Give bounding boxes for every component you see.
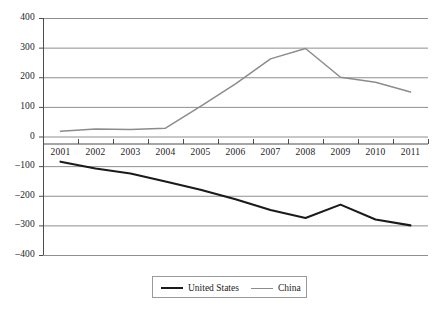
y-axis-tick-label: 300 <box>0 42 35 52</box>
x-axis-tick-label: 2010 <box>358 147 393 157</box>
legend-item-china: China <box>251 281 301 295</box>
chart-canvas <box>0 0 447 315</box>
line-chart: 4003002001000–100–200–300–400 2001200220… <box>0 0 447 315</box>
y-axis-tick-label: –100 <box>0 160 35 170</box>
chart-legend: United States China <box>152 276 307 298</box>
x-axis-tick-label: 2008 <box>288 147 323 157</box>
x-axis-tick-label: 2003 <box>113 147 148 157</box>
x-axis-tick-label: 2009 <box>323 147 358 157</box>
series-line-united-states <box>61 162 411 226</box>
y-axis-tick-label: 400 <box>0 12 35 22</box>
x-axis-tick-label: 2001 <box>43 147 78 157</box>
x-axis-tick-label: 2006 <box>218 147 253 157</box>
legend-label-china: China <box>278 282 301 295</box>
legend-item-united-states: United States <box>161 281 239 295</box>
x-axis-tick-label: 2007 <box>253 147 288 157</box>
y-axis-tick-label: –200 <box>0 190 35 200</box>
y-axis-tick-label: 100 <box>0 101 35 111</box>
y-axis-tick-label: –300 <box>0 219 35 229</box>
x-axis-tick-label: 2011 <box>393 147 428 157</box>
legend-swatch-china <box>251 288 273 289</box>
x-axis-tick-label: 2002 <box>78 147 113 157</box>
series-line-china <box>61 49 411 132</box>
x-axis-tick-label: 2004 <box>148 147 183 157</box>
y-axis-tick-label: –400 <box>0 249 35 259</box>
legend-swatch-united-states <box>161 287 183 289</box>
y-axis-tick-label: 0 <box>0 131 35 141</box>
legend-label-united-states: United States <box>188 282 239 295</box>
x-axis-tick-label: 2005 <box>183 147 218 157</box>
y-axis-tick-label: 200 <box>0 71 35 81</box>
